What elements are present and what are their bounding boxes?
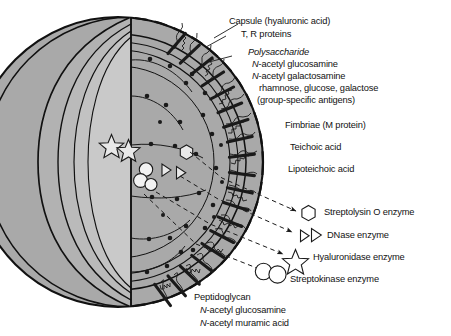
label-polysaccharide-item-0: N-acetyl glucosamine: [252, 59, 338, 71]
label-fimbriae: Fimbriae (M protein): [285, 120, 366, 132]
cell-body: [0, 17, 263, 307]
legend-circle-icon-2: [269, 266, 286, 283]
label-teichoic-acid: Teichoic acid: [290, 142, 341, 154]
peptidoglycan-item-0-rest: -acetyl glucosamine: [207, 305, 286, 315]
label-peptidoglycan-heading: Peptidoglycan: [194, 292, 250, 304]
legend-triangle-icon-1: [301, 230, 310, 242]
label-capsule: Capsule (hyaluronic acid): [229, 16, 330, 28]
legend-hexagon-icon: [302, 206, 315, 221]
polysaccharide-item-0-rest: -acetyl glucosamine: [259, 59, 338, 69]
streptococcus-diagram: [0, 0, 451, 336]
italic-n-prefix: N: [252, 71, 259, 81]
label-tr-proteins: T, R proteins: [241, 29, 291, 41]
legend-label-streptolysin: Streptolysin O enzyme: [324, 207, 414, 217]
label-peptidoglycan-item-0: N-acetyl glucosamine: [200, 305, 286, 317]
peptidoglycan-item-1-rest: -acetyl muramic acid: [207, 318, 289, 328]
label-polysaccharide-heading: Polysaccharide: [248, 47, 309, 59]
polysaccharide-item-1-rest: -acetyl galactosamine: [259, 71, 346, 81]
italic-n-prefix: N: [200, 318, 207, 328]
label-peptidoglycan-item-1: N-acetyl muramic acid: [200, 318, 289, 330]
legend-star-icon: [282, 250, 308, 275]
leader-tr-proteins: [206, 36, 226, 47]
legend-triangle-icon-2: [312, 229, 322, 242]
italic-n-prefix: N: [252, 59, 259, 69]
legend-label-dnase: DNase enzyme: [327, 230, 389, 240]
italic-n-prefix: N: [200, 305, 207, 315]
legend-label-streptokinase: Streptokinase enzyme: [290, 274, 379, 284]
legend-symbols: [255, 206, 321, 284]
label-polysaccharide-sugars: rhamnose, glucose, galactose: [259, 83, 378, 95]
cytoplasm-circle-3: [145, 179, 157, 191]
legend-label-hyaluronidase: Hyaluronidase enzyme: [313, 252, 405, 262]
label-lipoteichoic-acid: Lipoteichoic acid: [288, 164, 354, 176]
label-polysaccharide-antigens: (group-specific antigens): [257, 95, 355, 107]
label-polysaccharide-item-1: N-acetyl galactosamine: [252, 71, 345, 83]
